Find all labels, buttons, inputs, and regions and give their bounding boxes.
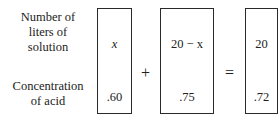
plus-sign: + (141, 64, 150, 82)
row-label-liters-line1: Number of (0, 10, 96, 25)
box-2-concentration: .75 (161, 90, 213, 105)
box-3-liters: 20 (246, 37, 277, 52)
box-2-liters: 20 − x (161, 37, 213, 52)
box-solution-1: x .60 (97, 8, 132, 114)
equals-sign: = (225, 64, 234, 82)
row-label-concentration: Concentration of acid (0, 79, 96, 109)
row-label-liters: Number of liters of solution (0, 10, 96, 55)
row-label-concentration-line1: Concentration (0, 79, 96, 94)
box-solution-2: 20 − x .75 (160, 8, 214, 114)
box-3-concentration: .72 (246, 90, 277, 105)
row-label-liters-line3: solution (0, 40, 96, 55)
box-1-concentration: .60 (98, 90, 131, 105)
box-mixture: 20 .72 (245, 8, 278, 114)
row-label-liters-line2: liters of (0, 25, 96, 40)
row-label-concentration-line2: of acid (0, 94, 96, 109)
box-1-liters: x (98, 37, 131, 52)
